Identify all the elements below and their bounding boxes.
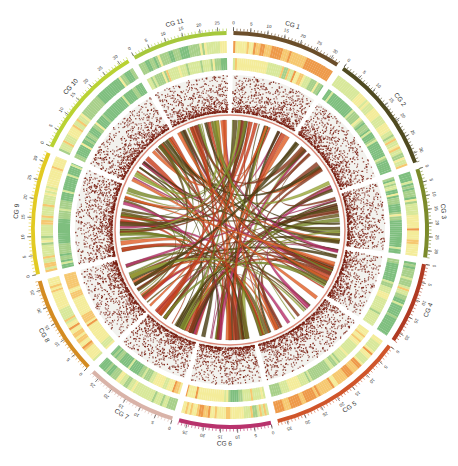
tick-label: 25 bbox=[321, 411, 328, 418]
tick-label: 25 bbox=[96, 65, 103, 72]
tick-label: 0 bbox=[232, 20, 235, 25]
heatmap-cell bbox=[225, 58, 227, 70]
tick-label: 20 bbox=[36, 307, 43, 314]
tick-label: 10 bbox=[133, 411, 140, 418]
segment-label: CG 7 bbox=[113, 407, 130, 421]
tick-label: 0 bbox=[395, 349, 401, 354]
segment-label: CG 9 bbox=[12, 203, 20, 219]
heatmap-cell bbox=[58, 227, 70, 229]
tick-label: 15 bbox=[354, 390, 361, 397]
tick-label: 0 bbox=[431, 264, 436, 268]
circos-svg: 051015202530CG 1051015202530CG 205101520… bbox=[0, 0, 458, 466]
heatmap-cell bbox=[224, 41, 227, 53]
segment-label: CG 6 bbox=[217, 439, 233, 446]
tick-label: 30 bbox=[112, 54, 119, 61]
tick-label: 5 bbox=[65, 357, 71, 362]
tick-label: 30 bbox=[332, 48, 339, 55]
heatmap-cell bbox=[230, 407, 232, 419]
heatmap-cell bbox=[232, 390, 234, 402]
tick-label: 30 bbox=[304, 419, 311, 426]
tick-label: 20 bbox=[399, 112, 406, 119]
tick-label: 25 bbox=[410, 129, 417, 136]
heatmap-cell bbox=[228, 390, 230, 402]
tick-label: 25 bbox=[316, 40, 323, 47]
tick-label: 15 bbox=[413, 318, 420, 325]
tick-label: 20 bbox=[196, 22, 202, 28]
heatmap-cell bbox=[58, 229, 70, 231]
tick-label: 10 bbox=[58, 106, 65, 113]
tick-label: 5 bbox=[428, 178, 434, 182]
heatmap-cell bbox=[407, 224, 419, 227]
tick-label: 0 bbox=[78, 371, 84, 377]
tick-label: 20 bbox=[22, 194, 28, 200]
tick-label: 20 bbox=[435, 220, 440, 226]
tick-label: 0 bbox=[127, 46, 132, 52]
heatmap-cell bbox=[390, 224, 402, 226]
heatmap-cell bbox=[58, 233, 70, 235]
heatmap-cell bbox=[407, 226, 419, 229]
tick-label: 25 bbox=[182, 429, 188, 435]
heatmap-cell bbox=[228, 407, 230, 419]
tick-label: 10 bbox=[160, 30, 167, 37]
tick-label: 15 bbox=[20, 214, 25, 220]
tick-label: 5 bbox=[383, 364, 389, 370]
tick-label: 30 bbox=[418, 147, 425, 154]
tick-label: 25 bbox=[435, 235, 440, 241]
tick-label: 25 bbox=[215, 20, 221, 25]
tick-label: 0 bbox=[167, 425, 171, 431]
tick-label: 0 bbox=[39, 140, 45, 145]
circos-plot: 051015202530CG 1051015202530CG 205101520… bbox=[0, 0, 458, 466]
heatmap-cell bbox=[41, 231, 53, 234]
tick-label: 25 bbox=[29, 289, 35, 296]
tick-label: 15 bbox=[69, 91, 76, 98]
tick-label: 0 bbox=[424, 164, 430, 168]
tick-label: 20 bbox=[199, 433, 205, 439]
heatmap-cell bbox=[230, 390, 232, 402]
heatmap-cell bbox=[41, 227, 53, 230]
tick-label: 10 bbox=[20, 234, 25, 240]
tick-label: 10 bbox=[431, 191, 437, 197]
tick-label: 20 bbox=[300, 33, 307, 40]
tick-label: 15 bbox=[388, 96, 395, 103]
tick-label: 5 bbox=[144, 37, 149, 43]
tick-label: 0 bbox=[346, 57, 351, 63]
tick-label: 30 bbox=[433, 249, 439, 255]
tick-label: 20 bbox=[403, 334, 410, 341]
heatmap-cell bbox=[41, 233, 53, 236]
tick-label: 15 bbox=[433, 206, 439, 212]
tick-label: 5 bbox=[150, 419, 155, 425]
tick-label: 5 bbox=[48, 123, 54, 128]
heatmap-cell bbox=[390, 228, 402, 230]
tick-label: 15 bbox=[283, 27, 290, 33]
tick-label: 5 bbox=[250, 21, 253, 26]
heatmap-cell bbox=[390, 226, 402, 228]
tick-label: 25 bbox=[26, 174, 32, 181]
synteny-links bbox=[115, 115, 345, 345]
heatmap-cell bbox=[407, 231, 419, 234]
tick-label: 10 bbox=[53, 340, 60, 347]
tick-label: 35 bbox=[286, 425, 293, 431]
tick-label: 0 bbox=[25, 274, 31, 278]
tick-label: 5 bbox=[427, 283, 433, 287]
tick-label: 5 bbox=[362, 69, 368, 75]
tick-label: 25 bbox=[89, 381, 96, 388]
tick-label: 0 bbox=[271, 430, 275, 436]
tick-label: 20 bbox=[82, 77, 89, 84]
heatmap-cell bbox=[41, 229, 53, 231]
tick-label: 20 bbox=[102, 393, 109, 400]
tick-label: 30 bbox=[32, 155, 39, 162]
tick-label: 10 bbox=[368, 377, 375, 384]
tick-label: 5 bbox=[22, 255, 27, 259]
heatmap-cell bbox=[232, 407, 235, 419]
segment-label: CG 3 bbox=[440, 203, 448, 219]
heatmap-cell bbox=[58, 231, 70, 233]
tick-label: 10 bbox=[266, 23, 272, 29]
heatmap-cell bbox=[390, 231, 402, 233]
heatmap-cell bbox=[407, 228, 419, 230]
tick-label: 15 bbox=[178, 25, 185, 31]
tick-label: 10 bbox=[235, 435, 241, 440]
tick-label: 10 bbox=[375, 82, 382, 89]
tick-label: 5 bbox=[254, 433, 258, 438]
